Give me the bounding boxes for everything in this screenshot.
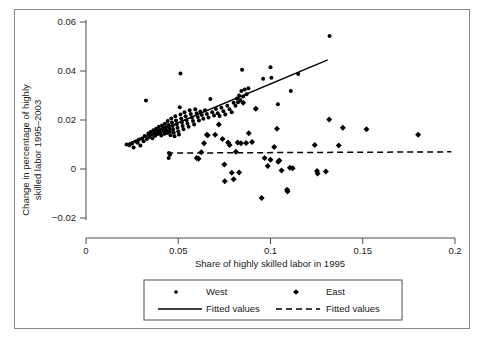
data-point-west — [205, 112, 209, 116]
y-axis-title-line1: Change in percentage of highly — [20, 84, 31, 216]
y-axis-title: Change in percentage of highly skilled l… — [20, 84, 43, 216]
data-point-west — [218, 114, 222, 118]
data-point-west — [207, 116, 211, 120]
data-point-east — [268, 157, 274, 163]
fitted-line-west — [126, 60, 328, 145]
data-point-east — [265, 163, 271, 169]
legend-marker-west-dot-icon — [174, 290, 178, 294]
axes — [86, 20, 455, 238]
fitted-line-east — [167, 152, 451, 153]
data-point-west — [192, 122, 196, 126]
data-point-east — [274, 126, 280, 132]
data-point-west — [233, 104, 237, 108]
data-point-west — [208, 97, 212, 101]
legend-label-west: West — [206, 286, 228, 297]
legend-label-fitted-west: Fitted values — [206, 303, 260, 314]
data-point-east — [253, 106, 259, 112]
data-point-east — [216, 121, 222, 127]
x-tick-label: 0.1 — [264, 245, 277, 256]
data-point-east — [323, 168, 329, 174]
data-point-west — [191, 119, 195, 123]
data-point-west — [185, 121, 189, 125]
y-tick-label: −0.02 — [52, 212, 76, 223]
series-east-points — [194, 100, 421, 201]
legend-box — [144, 280, 402, 320]
data-point-west — [181, 124, 185, 128]
data-point-west — [221, 109, 225, 113]
x-tick-label: 0.15 — [354, 245, 373, 256]
data-point-west — [223, 113, 227, 117]
data-point-west — [173, 114, 177, 118]
y-tick-label: 0 — [71, 163, 76, 174]
data-point-west — [144, 98, 148, 102]
data-point-west — [212, 114, 216, 118]
fitted-lines — [126, 60, 452, 153]
data-point-east — [212, 132, 218, 138]
data-point-east — [271, 144, 277, 150]
data-point-west — [261, 77, 265, 81]
data-point-west — [193, 107, 197, 111]
data-point-west — [178, 71, 182, 75]
data-point-east — [231, 176, 237, 182]
figure-container: −0.0200.020.040.06 00.050.10.150.2 Chang… — [0, 0, 481, 343]
data-point-west — [166, 119, 170, 123]
y-axis-ticks: −0.0200.020.040.06 — [52, 16, 86, 223]
data-point-east — [236, 169, 242, 175]
y-tick-label: 0.04 — [58, 65, 77, 76]
data-point-west — [225, 104, 229, 108]
data-point-east — [246, 130, 252, 136]
data-point-east — [415, 132, 421, 138]
data-point-west — [240, 68, 244, 72]
data-point-west — [184, 114, 188, 118]
data-point-east — [262, 155, 268, 161]
data-point-west — [269, 76, 273, 80]
legend-label-fitted-east: Fitted values — [326, 303, 380, 314]
data-point-west — [210, 110, 214, 114]
y-axis-title-line2: skilled labor 1995–2003 — [32, 100, 43, 200]
data-point-east — [243, 140, 249, 146]
data-point-west — [246, 86, 250, 90]
data-point-east — [259, 195, 265, 201]
data-point-east — [340, 125, 346, 131]
data-point-east — [220, 136, 226, 142]
data-point-west — [238, 98, 242, 102]
data-point-west — [174, 118, 178, 122]
data-point-west — [132, 145, 136, 149]
y-tick-label: 0.02 — [58, 114, 77, 125]
data-point-west — [176, 126, 180, 130]
data-point-west — [178, 113, 182, 117]
data-point-east — [312, 142, 318, 148]
x-tick-label: 0 — [83, 245, 88, 256]
data-point-east — [249, 139, 255, 145]
data-point-west — [142, 139, 146, 143]
data-point-west — [276, 102, 280, 106]
data-point-east — [279, 167, 285, 173]
data-point-west — [269, 65, 273, 69]
data-point-west — [178, 105, 182, 109]
data-point-east — [222, 178, 228, 184]
data-point-west — [181, 127, 185, 131]
legend-label-east: East — [326, 286, 345, 297]
data-point-west — [138, 143, 142, 147]
data-point-west — [201, 117, 205, 121]
data-point-west — [188, 108, 192, 112]
data-point-west — [219, 106, 223, 110]
data-point-west — [169, 133, 173, 137]
data-point-west — [169, 117, 173, 121]
data-point-west — [197, 118, 201, 122]
data-point-west — [189, 112, 193, 116]
data-point-west — [187, 125, 191, 129]
data-point-east — [221, 162, 227, 168]
x-axis-ticks: 00.050.10.150.2 — [83, 238, 461, 256]
data-point-east — [363, 126, 369, 132]
data-point-west — [289, 89, 293, 93]
scatter-plot: −0.0200.020.040.06 00.050.10.150.2 Chang… — [0, 0, 481, 343]
data-point-west — [177, 132, 181, 136]
x-axis-title: Share of highly skilled labor in 1995 — [195, 258, 345, 269]
x-tick-label: 0.2 — [448, 245, 461, 256]
data-point-west — [328, 34, 332, 38]
data-point-west — [173, 134, 177, 138]
data-point-east — [326, 117, 332, 123]
x-tick-label: 0.05 — [169, 245, 188, 256]
data-point-west — [170, 120, 174, 124]
